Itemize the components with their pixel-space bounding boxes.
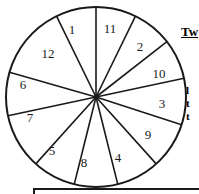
circle-sector-diagram: 111210394857612 <box>0 0 199 194</box>
sector-label-9: 9 <box>145 127 152 142</box>
sector-label-11: 11 <box>104 21 117 36</box>
sector-label-1: 1 <box>69 22 76 37</box>
side-body-line-2: t <box>186 97 199 110</box>
sector-label-12: 12 <box>42 46 55 61</box>
sector-label-2: 2 <box>137 39 144 54</box>
figure-canvas: 111210394857612 Tw l t t <box>0 0 199 194</box>
side-heading: Tw <box>181 24 199 40</box>
sector-label-6: 6 <box>20 77 27 92</box>
sector-label-4: 4 <box>115 150 122 165</box>
side-body-line-1: l <box>186 84 199 97</box>
bottom-border-box <box>33 188 199 194</box>
center-hub <box>94 95 98 99</box>
side-body-line-3: t <box>186 110 199 123</box>
sector-label-10: 10 <box>153 66 166 81</box>
sector-label-3: 3 <box>159 96 166 111</box>
side-body-text: l t t <box>186 84 199 123</box>
